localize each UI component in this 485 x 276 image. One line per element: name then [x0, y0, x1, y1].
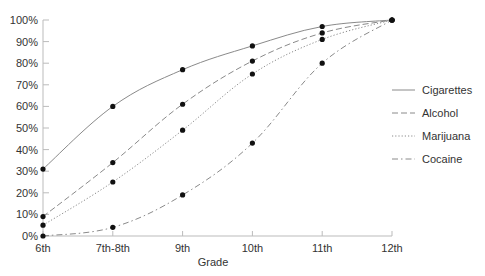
x-tick-label: 7th-8th	[96, 242, 130, 254]
cumulative-substance-use-chart: 0%10%20%30%40%50%60%70%80%90%100% 6th7th…	[0, 0, 485, 276]
y-tick-label: 10%	[16, 208, 38, 220]
data-point-cocaine	[250, 141, 255, 146]
legend-label: Cocaine	[422, 153, 462, 165]
x-tick-label: 12th	[381, 242, 402, 254]
legend-item-cocaine: Cocaine	[392, 153, 462, 165]
data-point-marijuana	[110, 179, 115, 184]
data-point-cocaine	[180, 192, 185, 197]
series-line-cocaine	[43, 20, 392, 236]
legend: CigarettesAlcoholMarijuanaCocaine	[392, 84, 473, 165]
data-point-alcohol	[110, 160, 115, 165]
series-line-alcohol	[43, 20, 392, 217]
data-point-cocaine	[110, 225, 115, 230]
legend-item-cigarettes: Cigarettes	[392, 84, 473, 96]
x-tick-label: 10th	[242, 242, 263, 254]
y-tick-label: 20%	[16, 187, 38, 199]
data-point-cigarettes	[110, 104, 115, 109]
data-point-cigarettes	[320, 24, 325, 29]
y-tick-label: 30%	[16, 165, 38, 177]
y-tick-label: 40%	[16, 144, 38, 156]
data-point-alcohol	[180, 102, 185, 107]
x-tick-label: 6th	[35, 242, 50, 254]
data-point-cocaine	[320, 61, 325, 66]
data-point-alcohol	[40, 214, 45, 219]
data-point-cigarettes	[180, 67, 185, 72]
x-axis: 6th7th-8th9th10th11th12th	[35, 231, 402, 254]
x-tick-label: 11th	[312, 242, 333, 254]
data-point-cocaine	[389, 17, 394, 22]
y-tick-label: 100%	[10, 14, 38, 26]
legend-label: Cigarettes	[422, 84, 473, 96]
series-line-marijuana	[43, 20, 392, 225]
series-line-cigarettes	[43, 20, 392, 169]
data-point-alcohol	[320, 30, 325, 35]
data-point-cigarettes	[250, 43, 255, 48]
data-point-marijuana	[320, 37, 325, 42]
y-tick-label: 50%	[16, 122, 38, 134]
legend-label: Marijuana	[422, 130, 471, 142]
x-tick-label: 9th	[175, 242, 190, 254]
data-point-marijuana	[180, 128, 185, 133]
legend-item-marijuana: Marijuana	[392, 130, 471, 142]
data-point-marijuana	[250, 71, 255, 76]
y-axis: 0%10%20%30%40%50%60%70%80%90%100%	[10, 14, 49, 242]
series-markers	[40, 17, 394, 238]
data-point-marijuana	[40, 223, 45, 228]
data-point-cigarettes	[40, 166, 45, 171]
x-axis-title: Grade	[198, 256, 229, 268]
legend-item-alcohol: Alcohol	[392, 107, 458, 119]
data-point-cocaine	[40, 233, 45, 238]
y-tick-label: 60%	[16, 100, 38, 112]
y-tick-label: 90%	[16, 36, 38, 48]
y-tick-label: 0%	[22, 230, 38, 242]
series-lines	[43, 20, 392, 236]
y-tick-label: 80%	[16, 57, 38, 69]
legend-label: Alcohol	[422, 107, 458, 119]
y-tick-label: 70%	[16, 79, 38, 91]
data-point-alcohol	[250, 58, 255, 63]
